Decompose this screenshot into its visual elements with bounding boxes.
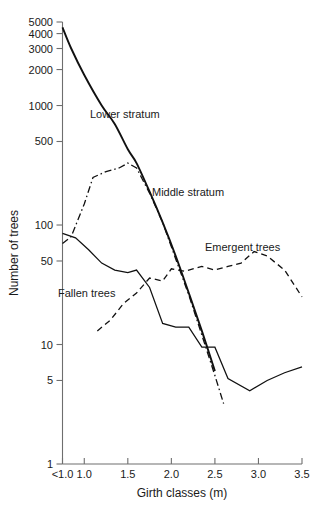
y-tick-label: 4000 — [29, 28, 53, 40]
series-label-emergent-trees: Emergent trees — [205, 241, 281, 253]
y-tick-label: 1000 — [29, 100, 53, 112]
y-tick-label: 5000 — [29, 16, 53, 28]
x-tick-label: 3.5 — [294, 468, 309, 480]
y-tick-label: 500 — [35, 135, 53, 147]
y-axis-title: Number of trees — [7, 210, 21, 296]
x-tick-label: 1.0 — [77, 468, 92, 480]
series-label-lower-stratum: Lower stratum — [90, 108, 160, 120]
x-axis-title: Girth classes (m) — [137, 486, 228, 500]
x-tick-label: 2.5 — [207, 468, 222, 480]
series-label-fallen-trees: Fallen trees — [58, 287, 116, 299]
x-tick-label: <1.0 — [52, 468, 74, 480]
series-label-middle-stratum: Middle stratum — [152, 186, 224, 198]
y-tick-label: 100 — [35, 219, 53, 231]
y-tick-label: 3000 — [29, 43, 53, 55]
y-tick-label: 50 — [41, 255, 53, 267]
y-tick-label: 5 — [47, 374, 53, 386]
x-tick-label: 2.0 — [164, 468, 179, 480]
y-tick-label: 10 — [41, 339, 53, 351]
x-tick-label: 1.5 — [120, 468, 135, 480]
chart-figure: 15105010050010002000300040005000 <1.01.0… — [0, 0, 312, 520]
line-chart: 15105010050010002000300040005000 <1.01.0… — [0, 0, 312, 520]
y-tick-label: 2000 — [29, 64, 53, 76]
x-tick-label: 3.0 — [251, 468, 266, 480]
